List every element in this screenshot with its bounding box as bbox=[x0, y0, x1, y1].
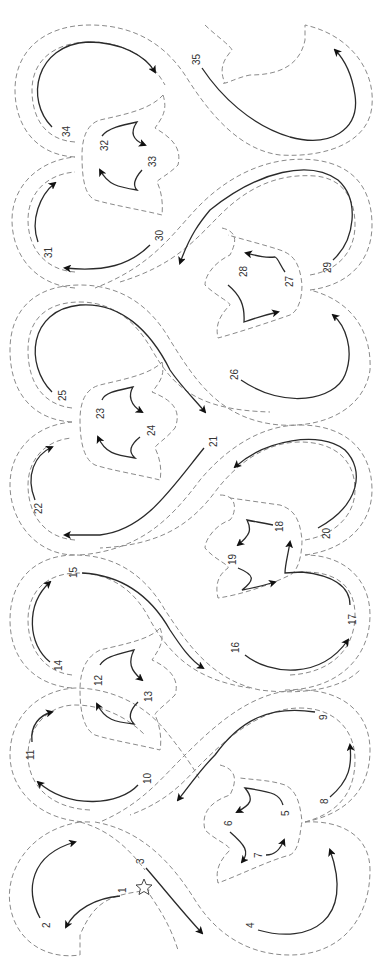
stitch-34 bbox=[38, 42, 155, 127]
step-label-28: 28 bbox=[238, 265, 249, 277]
step-label-5: 5 bbox=[280, 810, 291, 816]
stitch-3 bbox=[146, 868, 202, 933]
step-label-26: 26 bbox=[229, 368, 240, 380]
step-label-13: 13 bbox=[143, 690, 154, 702]
outline-heart-bottom-left bbox=[9, 822, 150, 956]
step-label-18: 18 bbox=[274, 520, 285, 532]
step-label-21: 21 bbox=[208, 435, 219, 447]
stitch-1 bbox=[66, 896, 120, 927]
outline-lobe-16-17-inner bbox=[290, 572, 355, 675]
step-label-11: 11 bbox=[25, 749, 36, 760]
step-label-32: 32 bbox=[99, 139, 110, 151]
stitch-16 bbox=[245, 640, 348, 670]
step-label-19: 19 bbox=[227, 553, 238, 565]
step-label-34: 34 bbox=[61, 125, 72, 137]
step-label-1: 1 bbox=[117, 887, 128, 893]
stitch-4 bbox=[258, 850, 337, 934]
stitch-33 bbox=[100, 170, 142, 190]
stitch-12 bbox=[100, 650, 142, 680]
step-labels: 1 2 3 4 5 6 7 8 9 10 11 12 13 14 15 16 1… bbox=[25, 53, 358, 928]
outline-lobe-25-26 bbox=[10, 285, 370, 425]
stitch-15 bbox=[82, 573, 203, 668]
step-label-27: 27 bbox=[284, 275, 295, 287]
outline-tulip-6 bbox=[82, 95, 179, 215]
stitch-8 bbox=[330, 745, 351, 797]
step-label-14: 14 bbox=[53, 659, 64, 671]
step-label-30: 30 bbox=[154, 229, 165, 241]
outline-s-band-1b bbox=[150, 895, 178, 950]
step-label-29: 29 bbox=[322, 261, 333, 273]
stitch-35 bbox=[202, 50, 356, 140]
tulip-outlines bbox=[80, 95, 302, 883]
stitch-2 bbox=[32, 842, 75, 918]
stitch-26 bbox=[241, 315, 349, 399]
outline-lobe-20-21-inner bbox=[100, 442, 355, 548]
step-label-4: 4 bbox=[245, 922, 256, 928]
outline-lobe-10-11 bbox=[10, 688, 200, 822]
stitch-23 bbox=[102, 387, 142, 412]
step-label-16: 16 bbox=[230, 641, 241, 653]
step-label-6: 6 bbox=[223, 820, 234, 826]
stitch-31 bbox=[35, 183, 55, 242]
step-label-17: 17 bbox=[347, 613, 358, 625]
step-label-2: 2 bbox=[41, 922, 52, 928]
start-star-icon bbox=[136, 879, 152, 895]
stitch-7 bbox=[266, 840, 284, 855]
outline-top-right-tail bbox=[205, 25, 232, 83]
outline-tulip-2 bbox=[80, 628, 176, 750]
step-label-23: 23 bbox=[95, 407, 106, 419]
step-label-8: 8 bbox=[319, 798, 330, 804]
step-label-12: 12 bbox=[93, 674, 104, 686]
step-label-3: 3 bbox=[135, 858, 146, 864]
quilting-stitch-diagram: 1 2 3 4 5 6 7 8 9 10 11 12 13 14 15 16 1… bbox=[0, 0, 383, 973]
stitch-9 bbox=[178, 710, 315, 800]
stitch-11 bbox=[32, 712, 52, 742]
step-label-20: 20 bbox=[321, 527, 332, 539]
step-label-33: 33 bbox=[147, 155, 158, 167]
outline-tulip-3 bbox=[205, 495, 302, 598]
stitch-20 bbox=[235, 439, 356, 528]
stitch-27 bbox=[246, 253, 285, 272]
outline-lobe-22-inner bbox=[28, 438, 75, 540]
stitch-10 bbox=[38, 782, 138, 802]
stitch-24 bbox=[98, 437, 140, 458]
stitch-30 bbox=[65, 245, 150, 269]
stitch-21 bbox=[65, 448, 204, 535]
stitch-22 bbox=[31, 447, 52, 500]
step-label-35: 35 bbox=[191, 53, 202, 65]
outline-lobe-10-11-inner bbox=[28, 705, 145, 810]
step-label-7: 7 bbox=[253, 852, 264, 858]
outline-s-band-1a bbox=[95, 822, 370, 955]
outline-tulip-bottom bbox=[204, 765, 302, 883]
stitch-17 bbox=[285, 542, 350, 605]
stitch-18 bbox=[238, 520, 273, 545]
step-label-25: 25 bbox=[57, 389, 68, 401]
stitch-19 bbox=[238, 568, 275, 590]
stitch-6 bbox=[230, 832, 246, 862]
stitch-13 bbox=[97, 702, 138, 724]
dashed-outlines bbox=[9, 25, 372, 956]
stitch-29 bbox=[180, 170, 352, 263]
step-label-10: 10 bbox=[142, 772, 153, 784]
step-label-24: 24 bbox=[146, 424, 157, 436]
outline-tulip-4 bbox=[80, 362, 177, 480]
step-label-15: 15 bbox=[68, 566, 79, 578]
step-label-9: 9 bbox=[318, 714, 329, 720]
stitch-5 bbox=[237, 788, 283, 812]
step-label-31: 31 bbox=[43, 246, 54, 258]
step-label-22: 22 bbox=[33, 502, 44, 514]
stitch-28 bbox=[228, 285, 278, 322]
